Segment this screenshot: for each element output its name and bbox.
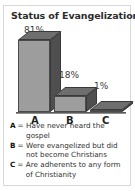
- legend-item-c: C = Are adherents to any form of Christi…: [10, 160, 127, 179]
- legend-key-a: A: [10, 121, 18, 131]
- legend-equals-c: =: [17, 160, 26, 170]
- bar-b: [54, 96, 86, 112]
- legend-item-a: A = Have never heard the gospel: [10, 121, 127, 140]
- legend-equals-a: =: [18, 121, 27, 131]
- legend-text-b: Were evangelized but did not become Chri…: [26, 141, 127, 160]
- legend-item-b: B = Were evangelized but did not become …: [10, 141, 127, 160]
- legend-text-c: Are adherents to any form of Christianit…: [26, 160, 127, 179]
- legend-key-c: C: [10, 160, 17, 170]
- chart-title: Status of Evangelization: [11, 10, 127, 21]
- legend-key-b: B: [10, 141, 17, 151]
- data-label-b: 18%: [59, 70, 79, 80]
- chart-legend: A = Have never heard the gospel B = Were…: [10, 121, 127, 180]
- bar-chart: 81% 18% 1% A B C: [10, 24, 128, 119]
- bar-a: [18, 40, 50, 112]
- legend-equals-b: =: [17, 141, 26, 151]
- infographic-card: Status of Evangelization 81% 18% 1% A B …: [0, 0, 135, 191]
- legend-text-a: Have never heard the gospel: [26, 121, 127, 140]
- chart-baseline: [16, 112, 126, 114]
